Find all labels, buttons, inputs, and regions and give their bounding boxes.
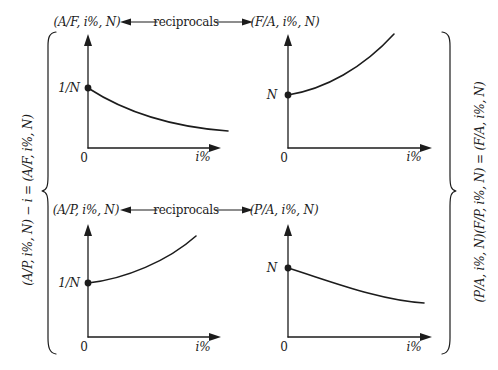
top-left-curve xyxy=(88,88,228,131)
bottom-left-x-arrowhead xyxy=(209,333,221,341)
top-left-origin-label: 0 xyxy=(80,152,87,164)
figure-canvas xyxy=(0,0,498,370)
right-identity-label: (P/A, i%, N)(F/P, i%, N) = (F/A, i%, N) xyxy=(474,82,486,303)
bottom-right-factor-label: (P/A, i%, N) xyxy=(250,204,319,216)
top-right-intercept-label: N xyxy=(267,89,277,101)
bottom-left-x-axis-label: i% xyxy=(196,341,211,353)
bottom-right-graph-axes xyxy=(284,224,432,341)
bottom-left-factor-label: (A/P, i%, N) xyxy=(53,204,119,216)
bottom-left-intercept-dot xyxy=(85,280,92,287)
bottom-left-intercept-label: 1/N xyxy=(58,277,80,289)
top-right-intercept-dot xyxy=(285,92,292,99)
bottom-left-graph-axes xyxy=(84,224,221,341)
bottom-right-x-axis-label: i% xyxy=(407,341,422,353)
bottom-right-origin-label: 0 xyxy=(280,341,287,353)
top-reciprocals-label: reciprocals xyxy=(153,16,219,28)
top-right-factor-label: (F/A, i%, N) xyxy=(251,16,320,28)
bottom-right-intercept-dot xyxy=(285,265,292,272)
left-identity-label: (A/P, i%, N) − i = (A/F, i%, N) xyxy=(22,114,34,285)
top-right-origin-label: 0 xyxy=(280,152,287,164)
bottom-right-curve xyxy=(288,268,424,303)
bottom-left-origin-label: 0 xyxy=(80,341,87,353)
factor-relationships-figure: (A/P, i%, N) − i = (A/F, i%, N) (P/A, i%… xyxy=(0,0,498,370)
top-right-x-axis-label: i% xyxy=(407,151,422,163)
top-left-y-arrowhead xyxy=(84,34,92,46)
bottom-right-y-arrowhead xyxy=(284,224,292,236)
top-left-x-arrowhead xyxy=(209,144,221,152)
bottom-left-y-arrowhead xyxy=(84,224,92,236)
top-right-y-arrowhead xyxy=(284,34,292,46)
bottom-reciprocals-label: reciprocals xyxy=(153,204,219,216)
top-right-x-arrowhead xyxy=(420,144,432,152)
bottom-left-curve xyxy=(88,236,196,283)
top-left-x-axis-label: i% xyxy=(196,151,211,163)
top-left-factor-label: (A/F, i%, N) xyxy=(53,16,120,28)
top-left-graph-axes xyxy=(84,34,221,152)
left-brace xyxy=(42,32,56,354)
top-right-graph-axes xyxy=(284,34,432,152)
right-brace xyxy=(442,32,456,354)
top-right-curve xyxy=(288,34,394,95)
top-left-intercept-dot xyxy=(85,85,92,92)
bottom-right-x-arrowhead xyxy=(420,333,432,341)
bottom-right-intercept-label: N xyxy=(267,262,277,274)
top-left-intercept-label: 1/N xyxy=(58,82,80,94)
